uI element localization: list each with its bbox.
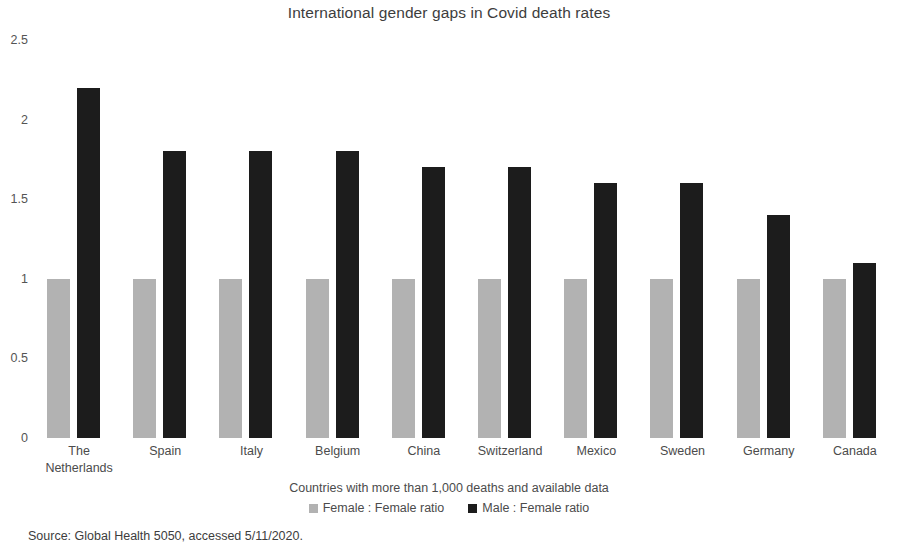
plot-area: 00.511.522.5	[36, 40, 898, 438]
bar-female-ratio	[47, 279, 70, 438]
y-axis-tick-label: 2	[21, 113, 28, 127]
bars-layer	[36, 40, 898, 438]
x-axis-category-label: Mexico	[553, 443, 639, 460]
bar-male-ratio	[163, 151, 186, 438]
y-axis-tick-label: 1	[21, 272, 28, 286]
y-axis-tick-label: 0	[21, 431, 28, 445]
x-axis-category-label: Germany	[726, 443, 812, 460]
bar-group	[381, 40, 467, 438]
bar-male-ratio	[853, 263, 876, 438]
bar-group	[726, 40, 812, 438]
bar-male-ratio	[680, 183, 703, 438]
x-axis-category-label-line: China	[381, 443, 467, 460]
bar-male-ratio	[77, 88, 100, 438]
y-axis-tick-label: 1.5	[11, 192, 28, 206]
source-note: Source: Global Health 5050, accessed 5/1…	[28, 529, 303, 543]
x-axis-category-label: Belgium	[295, 443, 381, 460]
x-axis-category-labels: TheNetherlandsSpainItalyBelgiumChinaSwit…	[36, 443, 898, 483]
bar-male-ratio	[767, 215, 790, 438]
legend-swatch-male-icon	[468, 504, 477, 513]
bar-female-ratio	[564, 279, 587, 438]
x-axis-category-label-line: Italy	[208, 443, 294, 460]
bar-group	[639, 40, 725, 438]
bar-female-ratio	[133, 279, 156, 438]
bar-group	[553, 40, 639, 438]
bar-female-ratio	[478, 279, 501, 438]
x-axis-category-label: Italy	[208, 443, 294, 460]
bar-male-ratio	[594, 183, 617, 438]
bar-female-ratio	[737, 279, 760, 438]
bar-group	[208, 40, 294, 438]
x-axis-category-label-line: Sweden	[639, 443, 725, 460]
x-axis-category-label-line: Belgium	[295, 443, 381, 460]
bar-male-ratio	[336, 151, 359, 438]
x-axis-category-label: TheNetherlands	[36, 443, 122, 477]
x-axis-category-label: Sweden	[639, 443, 725, 460]
bar-female-ratio	[823, 279, 846, 438]
x-axis-category-label-line: Netherlands	[36, 460, 122, 477]
chart-title: International gender gaps in Covid death…	[0, 4, 898, 22]
bar-group	[36, 40, 122, 438]
x-axis-category-label-line: Germany	[726, 443, 812, 460]
y-axis-tick-label: 2.5	[11, 33, 28, 47]
bar-male-ratio	[422, 167, 445, 438]
x-axis-category-label-line: Mexico	[553, 443, 639, 460]
bar-group	[467, 40, 553, 438]
x-axis-category-label-line: Spain	[122, 443, 208, 460]
chart-legend: Female : Female ratioMale : Female ratio	[0, 501, 898, 515]
bar-female-ratio	[392, 279, 415, 438]
x-axis-category-label-line: Switzerland	[467, 443, 553, 460]
x-axis-category-label-line: The	[36, 443, 122, 460]
legend-item: Female : Female ratio	[309, 501, 445, 515]
bar-female-ratio	[650, 279, 673, 438]
x-axis-category-label: Switzerland	[467, 443, 553, 460]
legend-item: Male : Female ratio	[468, 501, 589, 515]
y-axis-tick-label: 0.5	[11, 351, 28, 365]
bar-male-ratio	[249, 151, 272, 438]
bar-group	[122, 40, 208, 438]
x-axis-category-label: China	[381, 443, 467, 460]
bar-female-ratio	[306, 279, 329, 438]
legend-label: Male : Female ratio	[482, 501, 589, 515]
x-axis-category-label: Canada	[812, 443, 898, 460]
bar-female-ratio	[219, 279, 242, 438]
x-axis-category-label: Spain	[122, 443, 208, 460]
bar-male-ratio	[508, 167, 531, 438]
bar-group	[295, 40, 381, 438]
bar-group	[812, 40, 898, 438]
legend-label: Female : Female ratio	[323, 501, 445, 515]
legend-swatch-female-icon	[309, 504, 318, 513]
x-axis-title: Countries with more than 1,000 deaths an…	[0, 481, 898, 495]
chart-figure: International gender gaps in Covid death…	[0, 0, 898, 551]
x-axis-category-label-line: Canada	[812, 443, 898, 460]
